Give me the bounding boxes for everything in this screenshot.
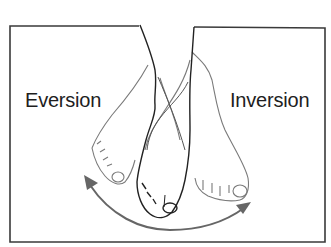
everted-foot [92,65,180,184]
foot-illustration [0,0,331,247]
rotation-arrow-icon [90,185,244,230]
frame [10,26,325,242]
center-foot [137,25,194,218]
inverted-foot [145,52,249,201]
eversion-inversion-diagram: Eversion Inversion [0,0,331,247]
inversion-label: Inversion [230,89,309,112]
eversion-label: Eversion [25,89,101,112]
crossing-lines [147,77,188,150]
